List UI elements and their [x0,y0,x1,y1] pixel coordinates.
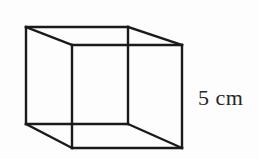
cube-edge-bottom-left-connector [26,124,72,148]
dimension-label: 5 cm [198,86,243,110]
cube-edge-bottom-right-connector [128,124,182,148]
cube-back-face [26,27,128,124]
cube-edge-top-left-connector [26,27,72,45]
cube-diagram [0,0,259,159]
cube-edge-top-right-connector [128,27,182,45]
geometry-figure: 5 cm [0,0,259,159]
